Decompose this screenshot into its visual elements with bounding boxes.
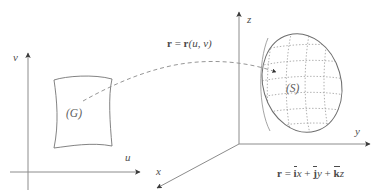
region-G-outline (54, 76, 112, 148)
j-hat-symbol: j (313, 168, 317, 179)
position-vector-z: z (340, 167, 344, 179)
region-G-label: (G) (66, 108, 82, 120)
v-axis-label: v (13, 52, 18, 63)
parametric-surface-diagram: v u (G) z y x (S) r = r(u, v) r = ix + j… (0, 0, 382, 192)
mapping-rhs-args: (u, v) (189, 37, 212, 49)
surface-S (250, 24, 353, 142)
surface-S-label: (S) (286, 83, 299, 95)
x-axis-label: x (156, 166, 161, 177)
x-axis (157, 144, 239, 188)
i-hat-symbol: i (294, 168, 297, 179)
mapping-equation: r = r(u, v) (167, 38, 212, 49)
position-vector-equation: r = ix + jy + kz (277, 168, 344, 179)
k-hat-symbol: k (334, 168, 340, 179)
uv-axes (10, 53, 140, 190)
z-axis-label: z (247, 14, 251, 25)
diagram-canvas (0, 0, 382, 192)
y-axis-label: y (355, 126, 360, 137)
u-axis-label: u (125, 152, 131, 163)
